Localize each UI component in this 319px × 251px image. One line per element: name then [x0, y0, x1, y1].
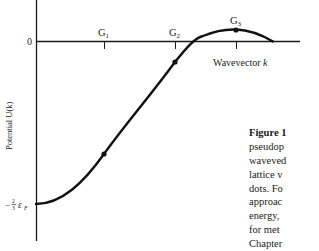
x-axis-label: Wavevector k	[213, 57, 268, 68]
caption-line: waveved	[249, 154, 319, 168]
y-tick-zero-label: 0	[27, 36, 32, 47]
svg-text:ε: ε	[18, 200, 22, 210]
point-g2	[172, 59, 177, 64]
figure-label: Figure 1	[249, 127, 286, 138]
caption-line: pseudop	[249, 140, 319, 154]
point-g3	[233, 27, 238, 32]
potential-curve	[36, 29, 273, 204]
y-axis-label: Potential U(k)	[4, 101, 14, 150]
g3-label: G3	[230, 15, 242, 28]
caption-line: energy,	[249, 209, 319, 223]
svg-text:−: −	[5, 200, 10, 210]
svg-text:F: F	[23, 205, 28, 211]
svg-text:2: 2	[12, 198, 15, 204]
fermi-energy-label: − 2 3 ε F	[5, 198, 28, 211]
point-g1	[101, 151, 106, 156]
svg-text:3: 3	[12, 205, 15, 211]
caption-line: dots. Fo	[249, 182, 319, 196]
caption-line: approac	[249, 195, 319, 209]
caption-line: lattice v	[249, 168, 319, 182]
caption-line: for met	[249, 223, 319, 237]
caption-line: Chapter	[249, 237, 319, 251]
g1-label: G1	[98, 27, 110, 40]
figure-caption: Figure 1 pseudop waveved lattice v dots.…	[249, 126, 319, 251]
g2-label: G2	[169, 27, 181, 40]
